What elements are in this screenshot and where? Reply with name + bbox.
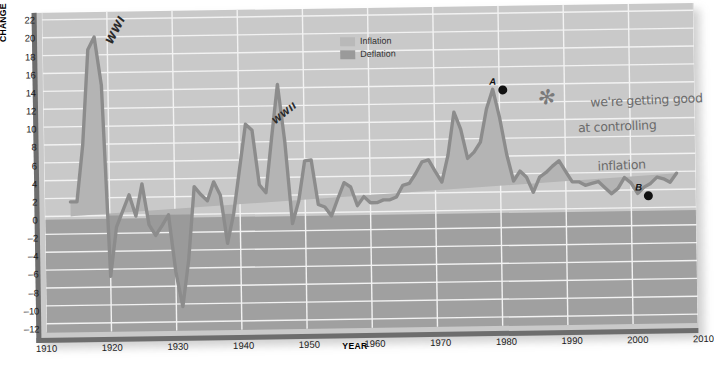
legend: Inflation Deflation [340, 36, 396, 63]
y-tick-label: 10 [10, 124, 36, 135]
y-tick-label: 22 [9, 15, 35, 26]
annotation-line-2: at controlling [578, 117, 704, 135]
y-tick-label: –4 [12, 251, 38, 262]
y-tick-label: –2 [12, 232, 38, 243]
y-axis-title-main: CHANGE IN CONSUMER PRICE INDEX [0, 0, 8, 42]
y-axis-title: CHANGE IN CONSUMER PRICE INDEX (percent) [0, 0, 8, 42]
legend-item-deflation: Deflation [340, 49, 396, 60]
student-annotation: we're getting good at controlling inflat… [560, 79, 706, 199]
y-tick-label: 18 [9, 51, 35, 62]
y-tick-label: –10 [13, 305, 39, 316]
y-tick-label: 8 [11, 142, 37, 153]
y-tick-label: 12 [10, 105, 36, 116]
chart-card: 2220181614121086420–2–4–6–8–10–12 191019… [32, 3, 699, 343]
x-axis-title: YEAR [0, 341, 710, 351]
data-point-a [498, 86, 507, 95]
annotation-line-3: inflation [597, 156, 705, 173]
legend-item-inflation: Inflation [340, 36, 396, 47]
legend-swatch-inflation [340, 37, 355, 46]
y-tick-label: –8 [13, 287, 39, 298]
legend-swatch-deflation [340, 50, 355, 59]
chart-plot-frame: 2220181614121086420–2–4–6–8–10–12 191019… [32, 3, 699, 343]
y-tick-label: 4 [11, 178, 37, 189]
annotation-line-1: we're getting good [590, 90, 703, 110]
y-tick-label: 6 [11, 160, 37, 171]
legend-label-inflation: Inflation [360, 36, 392, 46]
y-tick-label: 16 [9, 69, 35, 80]
data-point-label-a: A [489, 76, 496, 87]
y-tick-label: 20 [9, 33, 35, 44]
y-tick-label: 0 [12, 214, 38, 225]
y-tick-label: 2 [11, 196, 37, 207]
y-axis-tick-labels: 2220181614121086420–2–4–6–8–10–12 [7, 13, 40, 338]
y-tick-label: –6 [12, 269, 38, 280]
y-tick-label: –12 [13, 323, 39, 334]
y-tick-label: 14 [10, 87, 36, 98]
legend-label-deflation: Deflation [360, 49, 396, 60]
